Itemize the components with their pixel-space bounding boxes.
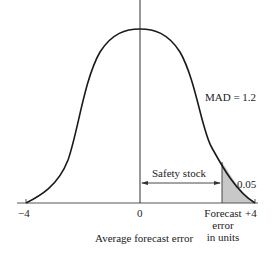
forecast-error-label-line1: Forecast [202,207,244,219]
x-axis-label: Average forecast error [95,232,193,244]
arrowhead-right-icon [214,181,221,185]
forecast-error-label-line2: error [202,219,244,231]
tail-probability-label: 0.05 [237,178,256,190]
tick-label-zero: 0 [137,207,143,219]
forecast-error-label-line3: in units [202,231,244,243]
arrowhead-left-icon [141,181,148,185]
tick-label-plus-4: +4 [245,207,257,219]
mad-label: MAD = 1.2 [205,91,256,103]
tick-label-minus-4: −4 [18,207,30,219]
forecast-error-label: Forecast error in units [202,207,244,243]
safety-stock-label: Safety stock [152,167,206,179]
